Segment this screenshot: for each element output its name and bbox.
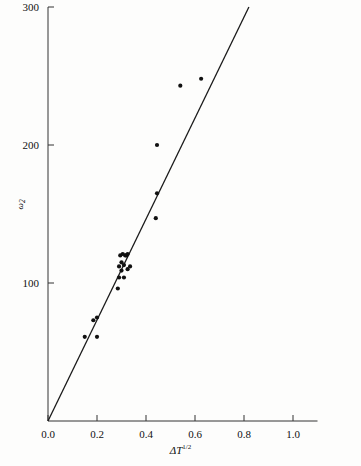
data-point xyxy=(199,77,203,81)
data-point xyxy=(122,263,126,267)
data-point xyxy=(154,216,158,220)
data-point xyxy=(128,264,132,268)
scatter-plot: 1002003000.00.20.40.60.81.0 xyxy=(0,0,361,466)
data-point xyxy=(126,252,130,256)
data-point xyxy=(91,318,95,322)
data-point xyxy=(116,286,120,290)
data-point xyxy=(122,275,126,279)
tick-marks xyxy=(48,7,293,421)
y-axis-label: ω2 xyxy=(6,198,36,211)
data-point xyxy=(117,264,121,268)
x-axis-label: ΔT1/2 xyxy=(0,443,361,456)
fit-line xyxy=(48,7,249,421)
y-axis-label-symbol: ω xyxy=(15,203,25,209)
data-point xyxy=(178,84,182,88)
y-tick-label: 300 xyxy=(23,1,40,13)
x-axis-label-symbol: ΔT xyxy=(170,444,183,456)
data-point xyxy=(119,268,123,272)
axes xyxy=(48,7,318,421)
tick-labels: 1002003000.00.20.40.60.81.0 xyxy=(23,1,301,440)
x-tick-label: 0.2 xyxy=(90,428,104,440)
x-tick-label: 0.6 xyxy=(188,428,202,440)
x-axis-label-superscript: 1/2 xyxy=(182,443,191,451)
figure-container: 1002003000.00.20.40.60.81.0 ω2 ΔT1/2 xyxy=(0,0,361,466)
x-tick-label: 0.0 xyxy=(41,428,55,440)
x-tick-label: 1.0 xyxy=(286,428,300,440)
regression-line xyxy=(48,7,249,421)
data-point xyxy=(155,191,159,195)
data-points xyxy=(83,77,204,339)
y-tick-label: 200 xyxy=(23,139,40,151)
data-point xyxy=(117,275,121,279)
data-point xyxy=(95,335,99,339)
data-point xyxy=(155,143,159,147)
x-tick-label: 0.4 xyxy=(139,428,153,440)
x-tick-label: 0.8 xyxy=(237,428,251,440)
y-tick-label: 100 xyxy=(23,277,40,289)
data-point xyxy=(83,335,87,339)
data-point xyxy=(95,315,99,319)
y-axis-label-subscript: 2 xyxy=(18,199,27,203)
